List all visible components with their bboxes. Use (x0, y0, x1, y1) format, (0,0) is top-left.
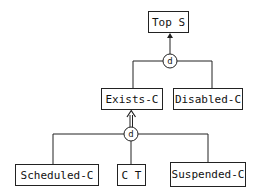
node-scheduled-c: Scheduled-C (15, 164, 99, 186)
node-top-s: Top S (148, 11, 189, 33)
upper-disjoint-label: d (163, 54, 177, 68)
specialization-diagram: d d Top S Exists-C Disabled-C Scheduled-… (0, 0, 258, 196)
node-suspended-c: Suspended-C (170, 162, 246, 187)
node-exists-c: Exists-C (101, 88, 163, 110)
arrowhead-top-icon (167, 33, 173, 38)
node-c-t: C T (117, 164, 146, 186)
double-arrowhead-icon (127, 111, 136, 118)
lower-disjoint-label: d (124, 127, 138, 141)
node-disabled-c: Disabled-C (173, 88, 243, 110)
